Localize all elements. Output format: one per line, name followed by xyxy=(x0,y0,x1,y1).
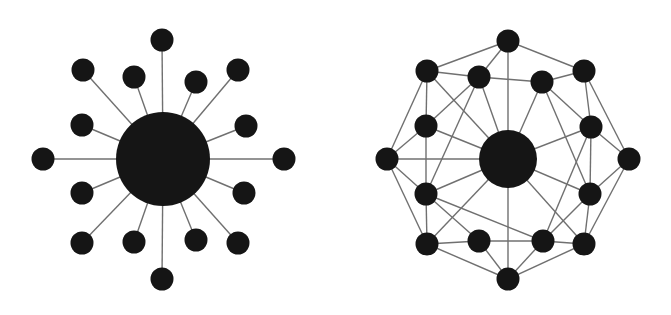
diagram-canvas xyxy=(0,0,671,315)
edge-B-I xyxy=(426,77,479,194)
node-K xyxy=(416,233,439,256)
node-n13 xyxy=(123,231,146,254)
node-n8 xyxy=(32,148,55,171)
node-n1 xyxy=(151,29,174,52)
node-M xyxy=(532,230,555,253)
node-N xyxy=(573,233,596,256)
node-A xyxy=(416,60,439,83)
node-F xyxy=(580,116,603,139)
node-D xyxy=(573,60,596,83)
edge-K-Bo xyxy=(427,244,508,279)
node-G xyxy=(376,148,399,171)
node-n2 xyxy=(72,59,95,82)
node-n10 xyxy=(71,182,94,205)
node-n9 xyxy=(273,148,296,171)
node-J xyxy=(579,183,602,206)
node-n7 xyxy=(235,115,258,138)
node-n3 xyxy=(123,66,146,89)
hub-node xyxy=(479,130,537,188)
edge-T-D xyxy=(508,41,584,71)
node-n16 xyxy=(151,268,174,291)
hub-node xyxy=(116,112,210,206)
node-n15 xyxy=(227,232,250,255)
node-C xyxy=(531,71,554,94)
distributed-network xyxy=(376,30,641,291)
node-n6 xyxy=(71,114,94,137)
edge-A-G xyxy=(387,71,427,159)
node-T xyxy=(497,30,520,53)
node-n11 xyxy=(233,182,256,205)
node-E xyxy=(415,115,438,138)
node-B xyxy=(468,66,491,89)
centralized-network xyxy=(32,29,296,291)
node-n12 xyxy=(71,232,94,255)
node-n14 xyxy=(185,229,208,252)
node-n4 xyxy=(185,71,208,94)
node-I xyxy=(415,183,438,206)
node-L xyxy=(468,230,491,253)
node-Bo xyxy=(497,268,520,291)
network-diagrams xyxy=(0,0,671,315)
node-n5 xyxy=(227,59,250,82)
node-H xyxy=(618,148,641,171)
